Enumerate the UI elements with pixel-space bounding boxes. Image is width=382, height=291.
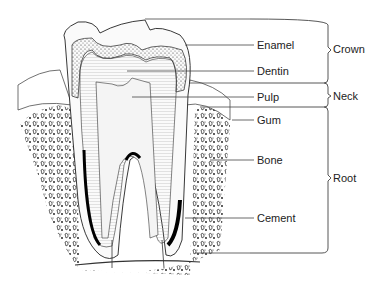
label-root: Root bbox=[333, 172, 356, 184]
label-pulp: Pulp bbox=[257, 91, 279, 103]
label-neck: Neck bbox=[333, 90, 358, 102]
tooth-diagram: Enamel Dentin Pulp Gum Bone Cement Crown… bbox=[0, 0, 382, 291]
label-gum: Gum bbox=[257, 114, 281, 126]
label-dentin: Dentin bbox=[257, 65, 289, 77]
label-crown: Crown bbox=[333, 43, 365, 55]
tooth-illustration bbox=[0, 0, 382, 291]
label-cement: Cement bbox=[257, 212, 296, 224]
label-enamel: Enamel bbox=[257, 39, 294, 51]
label-bone: Bone bbox=[257, 154, 283, 166]
